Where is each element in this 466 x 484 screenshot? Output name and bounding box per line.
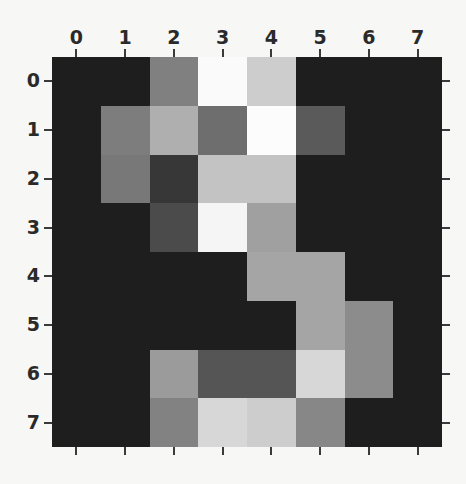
x-tick-mark-bottom-7 — [417, 447, 419, 455]
y-tick-label-7: 7 — [14, 413, 40, 433]
heatmap-figure: 01234567 01234567 — [0, 0, 466, 484]
y-tick-label-1: 1 — [14, 120, 40, 140]
heatmap-cell — [198, 203, 247, 252]
heatmap-cell — [52, 350, 101, 399]
x-tick-label-5: 5 — [305, 28, 335, 47]
heatmap-cell — [296, 398, 345, 447]
heatmap-cell — [247, 350, 296, 399]
heatmap-cell — [247, 301, 296, 350]
heatmap-cell — [345, 398, 394, 447]
y-tick-label-0: 0 — [14, 71, 40, 91]
heatmap-cell — [150, 155, 199, 204]
y-tick-mark-left-1 — [44, 129, 52, 131]
heatmap-cell — [198, 301, 247, 350]
heatmap-cell — [393, 203, 442, 252]
x-tick-label-0: 0 — [61, 28, 91, 47]
y-tick-mark-left-3 — [44, 227, 52, 229]
heatmap-cell — [247, 155, 296, 204]
heatmap-cell — [247, 252, 296, 301]
x-tick-mark-top-4 — [270, 49, 272, 57]
heatmap-cell — [150, 57, 199, 106]
heatmap-cell — [198, 398, 247, 447]
heatmap-cell — [247, 57, 296, 106]
heatmap-cell — [198, 57, 247, 106]
heatmap-cell — [296, 301, 345, 350]
x-tick-mark-bottom-4 — [270, 447, 272, 455]
heatmap-cell — [198, 350, 247, 399]
heatmap-cell — [52, 203, 101, 252]
y-tick-mark-left-2 — [44, 178, 52, 180]
heatmap-cell — [101, 252, 150, 301]
heatmap-cell — [345, 350, 394, 399]
x-tick-mark-top-7 — [417, 49, 419, 57]
x-tick-mark-bottom-0 — [75, 447, 77, 455]
x-tick-mark-top-2 — [173, 49, 175, 57]
heatmap-cell — [296, 106, 345, 155]
x-tick-label-3: 3 — [208, 28, 238, 47]
heatmap-cell — [198, 106, 247, 155]
heatmap-cell — [393, 155, 442, 204]
heatmap-cell — [101, 301, 150, 350]
heatmap-cell — [393, 252, 442, 301]
heatmap-cell — [52, 252, 101, 301]
y-tick-label-2: 2 — [14, 169, 40, 189]
x-tick-label-7: 7 — [403, 28, 433, 47]
y-tick-label-3: 3 — [14, 218, 40, 238]
x-tick-label-1: 1 — [110, 28, 140, 47]
heatmap-cell — [345, 252, 394, 301]
y-tick-mark-right-5 — [442, 324, 450, 326]
heatmap-cell — [247, 398, 296, 447]
x-tick-mark-bottom-5 — [319, 447, 321, 455]
heatmap-cell — [345, 301, 394, 350]
heatmap-cell — [150, 301, 199, 350]
heatmap-cell — [150, 203, 199, 252]
y-tick-mark-right-0 — [442, 80, 450, 82]
x-tick-mark-bottom-6 — [368, 447, 370, 455]
y-tick-label-4: 4 — [14, 266, 40, 286]
heatmap-cell — [198, 155, 247, 204]
heatmap-cell — [150, 398, 199, 447]
heatmap-cell — [345, 155, 394, 204]
heatmap-cell — [393, 398, 442, 447]
y-tick-mark-left-0 — [44, 80, 52, 82]
heatmap-cell — [101, 398, 150, 447]
heatmap-cell — [52, 155, 101, 204]
y-tick-mark-left-7 — [44, 422, 52, 424]
heatmap-cell — [198, 252, 247, 301]
y-tick-mark-right-3 — [442, 227, 450, 229]
x-tick-mark-top-6 — [368, 49, 370, 57]
y-tick-mark-right-6 — [442, 373, 450, 375]
heatmap-cell — [296, 350, 345, 399]
heatmap-cell — [52, 301, 101, 350]
heatmap-cell — [101, 106, 150, 155]
y-tick-mark-left-5 — [44, 324, 52, 326]
x-tick-mark-top-0 — [75, 49, 77, 57]
heatmap-cell — [296, 57, 345, 106]
heatmap-cell — [101, 57, 150, 106]
x-tick-mark-bottom-2 — [173, 447, 175, 455]
heatmap-cell — [101, 155, 150, 204]
x-tick-mark-top-5 — [319, 49, 321, 57]
heatmap-cell — [101, 350, 150, 399]
x-tick-mark-top-1 — [124, 49, 126, 57]
heatmap-cell — [101, 203, 150, 252]
heatmap-plot-area — [52, 57, 442, 447]
heatmap-cell — [52, 106, 101, 155]
heatmap-cell — [150, 106, 199, 155]
y-tick-mark-right-1 — [442, 129, 450, 131]
heatmap-cell — [296, 203, 345, 252]
x-tick-mark-bottom-1 — [124, 447, 126, 455]
x-tick-mark-bottom-3 — [222, 447, 224, 455]
heatmap-cell — [393, 350, 442, 399]
x-tick-label-4: 4 — [256, 28, 286, 47]
heatmap-cell — [150, 252, 199, 301]
y-tick-label-5: 5 — [14, 315, 40, 335]
y-tick-mark-right-7 — [442, 422, 450, 424]
heatmap-cell — [393, 57, 442, 106]
x-tick-label-6: 6 — [354, 28, 384, 47]
heatmap-cell — [345, 203, 394, 252]
x-tick-label-2: 2 — [159, 28, 189, 47]
heatmap-cell — [393, 301, 442, 350]
y-tick-mark-right-2 — [442, 178, 450, 180]
heatmap-cell — [393, 106, 442, 155]
